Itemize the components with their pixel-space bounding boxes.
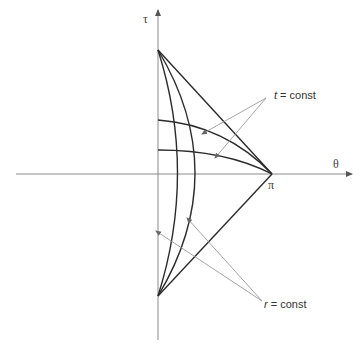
tau-axis-label: τ: [143, 12, 148, 26]
t-const-pointer-1: [202, 98, 266, 134]
r-const-curve-outer: [158, 50, 195, 296]
t-const-curve-lower: [158, 150, 272, 174]
t-const-pointer-2: [215, 98, 266, 158]
pi-tick-label: π: [268, 178, 274, 192]
r-const-pointer-2: [187, 218, 262, 301]
r-const-curve-inner: [158, 50, 178, 296]
lower-boundary-edge: [158, 174, 272, 296]
r-const-label-rest: = const: [268, 298, 307, 310]
theta-axis-label: θ: [333, 157, 339, 171]
r-const-label: r = const: [264, 298, 307, 310]
t-const-label: t = const: [274, 89, 316, 101]
conformal-diagram: τ θ π t = const r = const: [0, 0, 362, 349]
t-const-label-rest: = const: [277, 89, 316, 101]
